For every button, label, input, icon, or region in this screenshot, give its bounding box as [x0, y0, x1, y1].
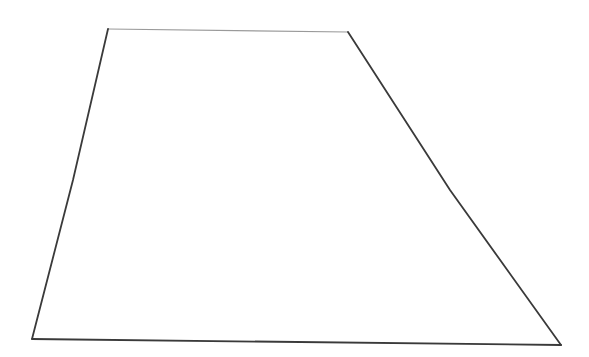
trapezoid-interior [32, 29, 561, 345]
trapezoid-drawing [0, 0, 589, 357]
figure-canvas [0, 0, 589, 357]
